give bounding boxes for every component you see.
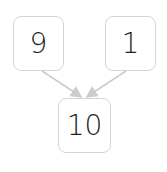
- part-box-left: 9: [13, 16, 64, 71]
- arrow-left-to-whole: [42, 71, 80, 96]
- arrow-right-to-whole: [88, 71, 126, 96]
- part-right-value: 1: [122, 27, 140, 60]
- whole-box: 10: [58, 98, 111, 153]
- whole-value: 10: [67, 109, 103, 142]
- part-left-value: 9: [30, 27, 48, 60]
- part-box-right: 1: [105, 16, 156, 71]
